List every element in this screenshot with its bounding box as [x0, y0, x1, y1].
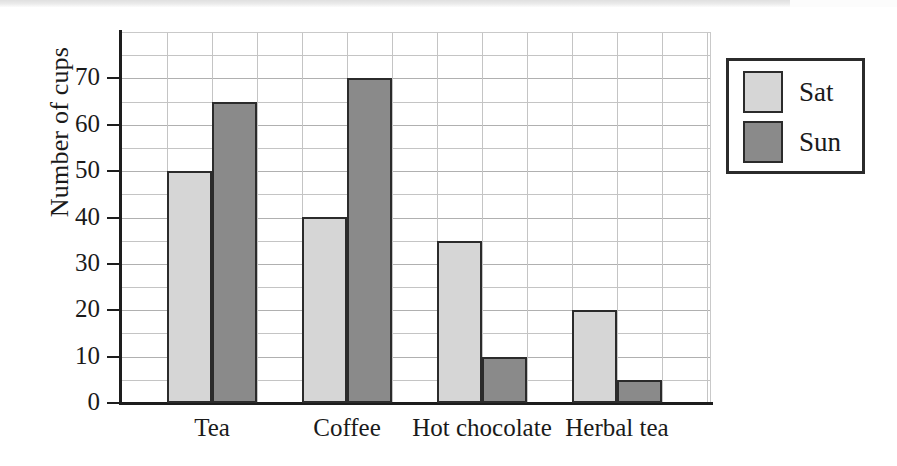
- y-axis-tick-label: 50: [36, 157, 100, 182]
- plot-border-top: [122, 32, 711, 33]
- bar-tea-sat: [167, 171, 212, 403]
- y-axis-tick-label: 30: [36, 250, 100, 275]
- y-axis-tick-value: 50: [36, 157, 100, 182]
- gridline-horizontal: [122, 55, 711, 56]
- y-axis-tick-value: 0: [36, 389, 100, 414]
- gridline-vertical: [482, 32, 483, 403]
- y-axis-tick-label: 40: [36, 204, 100, 229]
- gridline-horizontal: [122, 78, 711, 79]
- bar-hot-chocolate-sat: [437, 241, 482, 403]
- chart-legend: Sat Sun: [726, 58, 865, 174]
- bar-coffee-sun: [347, 78, 392, 403]
- plot-border-right: [710, 32, 711, 403]
- y-axis-tick-mark: [107, 402, 121, 404]
- y-axis-tick-value: 10: [36, 343, 100, 368]
- y-axis-tick-label: 60: [36, 111, 100, 136]
- legend-item-sat: Sat: [743, 71, 855, 113]
- y-axis-tick-mark: [107, 356, 121, 358]
- legend-label-sun: Sun: [799, 122, 841, 162]
- category-label-herbal-tea: Herbal tea: [507, 413, 727, 443]
- y-axis-tick-mark: [107, 263, 121, 265]
- gridline-horizontal: [122, 125, 711, 126]
- gridline-vertical: [257, 32, 258, 403]
- gridline-vertical: [662, 32, 663, 403]
- y-axis-tick-value: 70: [36, 64, 100, 89]
- bar-chart-figure: Number of cups 010203040506070 TeaCoffee…: [0, 0, 897, 466]
- gridline-vertical: [527, 32, 528, 403]
- bar-herbal-tea-sun: [617, 380, 662, 403]
- gridline-vertical: [392, 32, 393, 403]
- gridline-horizontal: [122, 102, 711, 103]
- y-axis-tick-label: 20: [36, 296, 100, 321]
- legend-item-sun: Sun: [743, 121, 855, 163]
- y-axis-tick-label: 0: [36, 389, 100, 414]
- legend-swatch-sat-icon: [743, 71, 783, 113]
- y-axis-tick-label: 10: [36, 343, 100, 368]
- y-axis-tick-mark: [107, 170, 121, 172]
- gridline-horizontal: [122, 148, 711, 149]
- gridline-vertical: [707, 32, 708, 403]
- legend-label-sat: Sat: [799, 72, 834, 112]
- y-axis-tick-value: 20: [36, 296, 100, 321]
- bar-tea-sun: [212, 102, 257, 403]
- bar-coffee-sat: [302, 217, 347, 403]
- y-axis-tick-value: 60: [36, 111, 100, 136]
- legend-swatch-sun-icon: [743, 121, 783, 163]
- y-axis-tick-label: 70: [36, 64, 100, 89]
- gridline-vertical: [617, 32, 618, 403]
- y-axis-tick-value: 40: [36, 204, 100, 229]
- y-axis-tick-mark: [107, 77, 121, 79]
- y-axis-tick-mark: [107, 124, 121, 126]
- bar-herbal-tea-sat: [572, 310, 617, 403]
- y-axis-tick-value: 30: [36, 250, 100, 275]
- y-axis-tick-mark: [107, 309, 121, 311]
- bar-hot-chocolate-sun: [482, 357, 527, 403]
- y-axis-tick-mark: [107, 217, 121, 219]
